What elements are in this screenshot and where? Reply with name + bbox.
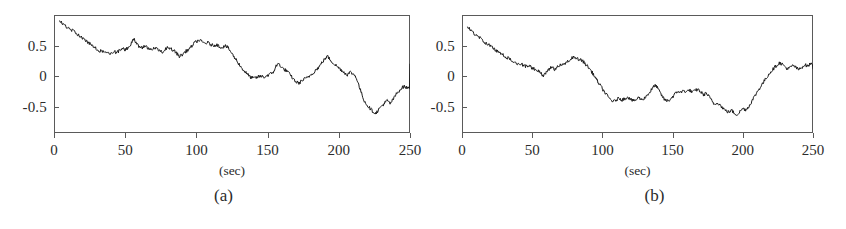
x-tick-mark bbox=[339, 133, 340, 138]
x-tick-label: 200 bbox=[732, 142, 755, 159]
x-tick-label: 0 bbox=[50, 142, 58, 159]
y-tick-mark bbox=[462, 107, 467, 108]
y-tick-label: 0 bbox=[39, 68, 47, 85]
signal-trace-a bbox=[54, 15, 410, 133]
plot-area-a: 0.50-0.5 050100150200250 (sec) bbox=[54, 15, 410, 133]
y-tick-mark bbox=[54, 76, 59, 77]
x-tick-mark bbox=[268, 133, 269, 138]
y-tick-label: 0.5 bbox=[28, 37, 47, 54]
figure-container: 0.50-0.5 050100150200250 (sec) (a) 0.50-… bbox=[0, 0, 846, 229]
x-tick-label: 200 bbox=[328, 142, 351, 159]
x-tick-label: 50 bbox=[118, 142, 133, 159]
y-tick-mark bbox=[462, 76, 467, 77]
x-tick-label: 0 bbox=[458, 142, 466, 159]
y-tick-mark bbox=[54, 107, 59, 108]
x-tick-label: 150 bbox=[661, 142, 684, 159]
x-tick-mark bbox=[54, 133, 55, 138]
x-axis-title-b: (sec) bbox=[624, 163, 650, 179]
panel-caption-b: (b) bbox=[423, 186, 846, 206]
signal-trace-b bbox=[462, 15, 813, 133]
x-tick-mark bbox=[410, 133, 411, 138]
x-tick-label: 50 bbox=[525, 142, 540, 159]
x-tick-mark bbox=[743, 133, 744, 138]
x-tick-label: 250 bbox=[802, 142, 825, 159]
x-tick-mark bbox=[532, 133, 533, 138]
x-axis-title-a: (sec) bbox=[219, 163, 245, 179]
x-tick-label: 100 bbox=[185, 142, 208, 159]
x-tick-mark bbox=[125, 133, 126, 138]
x-tick-mark bbox=[196, 133, 197, 138]
plot-area-b: 0.50-0.5 050100150200250 (sec) bbox=[462, 15, 813, 133]
panel-a: 0.50-0.5 050100150200250 (sec) (a) bbox=[0, 0, 423, 229]
panel-caption-a: (a) bbox=[0, 186, 435, 206]
x-tick-mark bbox=[673, 133, 674, 138]
x-tick-label: 100 bbox=[591, 142, 614, 159]
x-tick-label: 250 bbox=[399, 142, 422, 159]
x-tick-label: 150 bbox=[256, 142, 279, 159]
x-tick-mark bbox=[813, 133, 814, 138]
y-tick-mark bbox=[462, 46, 467, 47]
y-tick-label: 0 bbox=[447, 68, 455, 85]
y-tick-label: -0.5 bbox=[430, 99, 455, 116]
x-tick-mark bbox=[602, 133, 603, 138]
y-tick-mark bbox=[54, 46, 59, 47]
x-tick-mark bbox=[462, 133, 463, 138]
panel-b: 0.50-0.5 050100150200250 (sec) (b) bbox=[423, 0, 846, 229]
y-tick-label: 0.5 bbox=[436, 37, 455, 54]
y-tick-label: -0.5 bbox=[22, 99, 47, 116]
